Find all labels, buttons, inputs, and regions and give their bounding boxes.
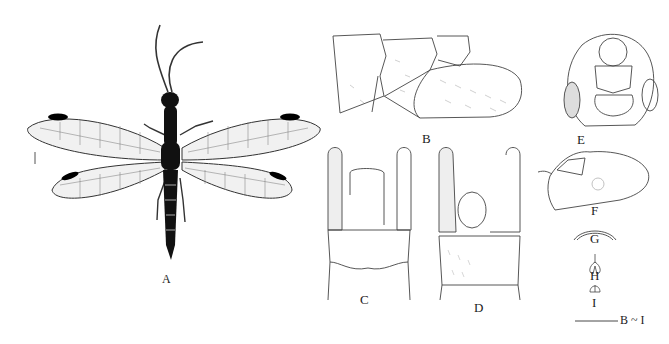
panel-c-illustration — [328, 148, 411, 301]
panel-i-illustration — [590, 285, 600, 292]
scale-bar-label: B ~ I — [620, 314, 645, 326]
panel-label-f: F — [591, 204, 598, 217]
figure-plate: A B C D E F G H I B ~ I — [0, 0, 669, 344]
panel-label-c: C — [360, 293, 369, 306]
panel-label-h: H — [590, 269, 599, 282]
panel-label-b: B — [422, 132, 431, 145]
insect-habitus-illustration — [28, 25, 321, 260]
panel-e-illustration — [564, 34, 658, 126]
panel-label-g: G — [590, 232, 599, 245]
panel-d-illustration — [439, 148, 520, 301]
panel-label-a: A — [162, 273, 171, 285]
panel-f-illustration — [538, 152, 649, 210]
panel-label-i: I — [592, 296, 596, 309]
panel-label-e: E — [577, 133, 585, 146]
panel-label-d: D — [474, 301, 483, 314]
figure-artwork — [0, 0, 669, 344]
panel-b-illustration — [333, 34, 522, 118]
